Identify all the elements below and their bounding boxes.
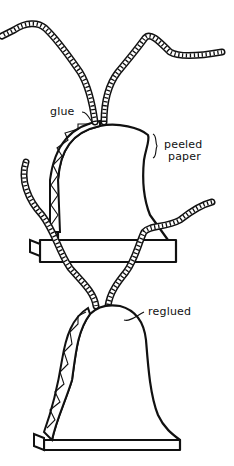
label-paper: paper bbox=[168, 151, 201, 162]
label-reglued: reglued bbox=[148, 306, 191, 317]
bell-diagram bbox=[0, 0, 234, 466]
upper-ropes bbox=[2, 24, 222, 122]
label-glue: glue bbox=[50, 106, 75, 117]
upper-bell bbox=[30, 121, 176, 262]
peeled-brace bbox=[153, 134, 157, 158]
label-peeled: peeled bbox=[164, 139, 203, 150]
lower-bell bbox=[34, 305, 180, 450]
